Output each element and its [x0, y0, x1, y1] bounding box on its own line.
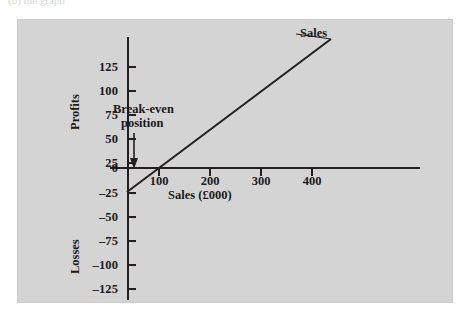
break-even-annotation-line1: Break-even: [113, 102, 174, 116]
x-tick-label-400: 400: [287, 174, 337, 189]
y-tick-25: [129, 162, 136, 164]
y-tick-label-minus-50: –50: [18, 210, 118, 225]
x-tick-label-200: 200: [185, 174, 235, 189]
figure-root: (b) the graph 125 100 75 50 25 –25 –50 –…: [0, 0, 468, 318]
y-tick-label-minus-125: –125: [18, 282, 118, 297]
y-tick-50: [129, 138, 136, 140]
y-tick-minus-100: [129, 264, 136, 266]
x-tick-label-100: 100: [134, 174, 184, 189]
y-tick-minus-25: [129, 192, 136, 194]
y-tick-minus-75: [129, 240, 136, 242]
series-label-sales: Sales: [300, 26, 327, 41]
break-even-annotation: Break-even position: [113, 103, 174, 130]
chart-panel: 125 100 75 50 25 –25 –50 –75 –100 –125 0…: [18, 20, 452, 302]
break-even-annotation-line2: position: [113, 117, 174, 131]
y-tick-minus-125: [129, 288, 136, 290]
y-tick-label-minus-25: –25: [18, 186, 118, 201]
x-axis-line: [110, 167, 420, 169]
y-tick-minus-50: [129, 216, 136, 218]
y-tick-label-125: 125: [18, 60, 118, 75]
y-tick-100: [129, 90, 136, 92]
y-tick-label-50: 50: [18, 132, 118, 147]
x-tick-label-300: 300: [236, 174, 286, 189]
y-axis-title-profits: Profits: [68, 94, 83, 130]
cut-off-caption-fragment: (b) the graph: [8, 0, 308, 6]
x-axis-title: Sales (£000): [168, 188, 232, 203]
y-tick-label-0: 0: [18, 161, 118, 176]
y-axis-title-losses: Losses: [68, 239, 83, 274]
y-tick-125: [129, 66, 136, 68]
